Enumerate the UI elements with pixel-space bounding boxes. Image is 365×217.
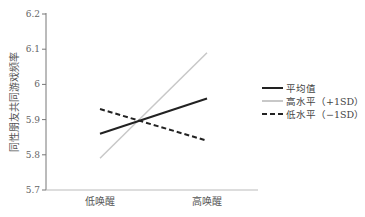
y-tick-label: 5.7 (26, 185, 41, 195)
y-tick-label: 6 (34, 79, 40, 89)
x-category-low-arousal: 低唤醒 (85, 195, 115, 207)
series-line-low (100, 109, 207, 141)
legend-label-high: 高水平（+1SD） (286, 96, 364, 107)
legend-label-average: 平均值 (286, 83, 316, 94)
y-tick-label: 6.2 (26, 9, 40, 19)
y-ticks: 5.75.85.966.16.2 (26, 9, 46, 195)
interaction-line-chart: 5.75.85.966.16.2 同性朋友共同游戏频率 低唤醒 高唤醒 平均值 … (0, 0, 365, 217)
series-line-high (100, 53, 207, 159)
y-tick-label: 5.9 (26, 115, 41, 125)
y-axis-label: 同性朋友共同游戏频率 (8, 52, 20, 152)
series-lines (100, 53, 207, 159)
series-line-average (100, 98, 207, 133)
legend-label-low: 低水平（−1SD） (286, 109, 364, 120)
x-category-high-arousal: 高唤醒 (192, 195, 222, 207)
legend: 平均值 高水平（+1SD） 低水平（−1SD） (262, 83, 364, 120)
y-tick-label: 5.8 (26, 150, 41, 160)
y-tick-label: 6.1 (26, 44, 40, 54)
